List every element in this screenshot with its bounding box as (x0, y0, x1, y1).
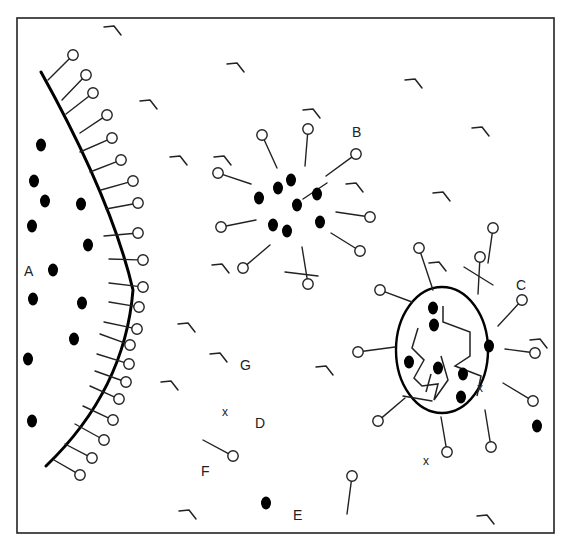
free-lipids (203, 223, 542, 514)
x-mark: x (477, 381, 483, 395)
lipid-tail (421, 253, 433, 290)
lipid-molecule (109, 255, 148, 265)
lipid-head-icon (88, 88, 98, 98)
lipid-tail (80, 140, 107, 152)
lipid-head-icon (138, 255, 148, 265)
lipid-molecule (485, 410, 496, 452)
protein-dot-icon (433, 362, 443, 375)
protein-dot-icon (404, 356, 414, 369)
lipid-molecule (65, 444, 97, 463)
lipid-head-icon (488, 223, 498, 233)
lipid-molecule (347, 471, 357, 514)
lipid-tail (505, 349, 530, 352)
protein-dot-icon (273, 182, 283, 195)
protein-dot-icon (23, 353, 33, 366)
lipid-molecule (104, 322, 142, 334)
detergent-monomer-icon (227, 63, 244, 72)
lipid-molecule (80, 133, 117, 152)
lipid-tail (226, 220, 256, 226)
lipid-molecule (441, 417, 452, 457)
protein-dot-icon (458, 368, 468, 381)
vesicle-outline (396, 287, 488, 413)
lipid-molecule (498, 295, 527, 326)
lipid-head-icon (486, 442, 496, 452)
lipid-molecule (48, 50, 78, 80)
detergent-monomer-icon (472, 127, 489, 136)
lipid-molecule (257, 130, 277, 168)
protein-dot-icon (456, 391, 466, 404)
protein-dot-icon (76, 198, 86, 211)
detergent-monomer-icon (212, 264, 229, 273)
lipid-tail (488, 233, 492, 263)
detergent-monomer-icon (405, 79, 422, 88)
lipid-tail (478, 262, 480, 294)
lipid-head-icon (125, 340, 135, 350)
lipid-tail (347, 481, 351, 514)
lipid-head-icon (99, 435, 109, 445)
lipid-head-icon (132, 324, 142, 334)
lipid-molecule (62, 70, 91, 100)
detergent-monomer-icon (433, 192, 450, 201)
detergent-monomer-icon (316, 366, 333, 375)
lipid-molecule (503, 383, 538, 406)
lipid-molecule (101, 176, 138, 190)
protein-dot-icon (254, 192, 264, 205)
lipid-head-icon (530, 348, 540, 358)
lipid-head-icon (121, 377, 131, 387)
lipid-molecule (353, 347, 395, 357)
lipid-tail (100, 334, 125, 343)
lipid-tail (66, 96, 89, 114)
lipid-head-icon (102, 110, 112, 120)
detergent-monomer-icon (429, 262, 446, 271)
lipid-molecule (54, 460, 85, 480)
lipid-head-icon (414, 243, 424, 253)
lipid-molecule (475, 252, 485, 294)
lipid-tail (326, 157, 352, 176)
lipid-molecule (106, 198, 143, 209)
detergent-monomer-icon (161, 381, 178, 390)
lipid-head-icon (517, 295, 527, 305)
x-mark: x (222, 405, 228, 419)
region-label-f: F (201, 463, 210, 479)
lipid-tail (48, 59, 69, 80)
protein-dot-icon (40, 195, 50, 208)
lipid-head-icon (134, 302, 144, 312)
lipid-molecule (213, 168, 251, 184)
lipid-tail (62, 79, 82, 100)
lipid-head-icon (81, 70, 91, 80)
protein-dot-icon (27, 415, 37, 428)
lipid-tail (336, 212, 365, 216)
protein-dot-icon (315, 216, 325, 229)
lipid-molecule (109, 282, 148, 292)
lipid-tail (90, 162, 116, 172)
lipid-head-icon (116, 155, 126, 165)
lipid-molecule (414, 243, 433, 290)
lipid-molecule (104, 228, 143, 238)
protein-dot-icon (286, 174, 296, 187)
lipid-head-icon (68, 50, 78, 60)
lipid-tail (54, 460, 75, 472)
lipid-tail (203, 440, 228, 454)
lipid-tail (485, 410, 490, 442)
lipid-molecule (203, 440, 238, 461)
detergent-monomer-icon (178, 323, 195, 332)
region-label-b: B (352, 124, 361, 140)
protein-dot-icon (83, 239, 93, 252)
lipid-head-icon (442, 447, 452, 457)
lipid-head-icon (128, 176, 138, 186)
lipid-molecule (303, 124, 313, 166)
lipid-molecule (109, 302, 144, 312)
protein-dot-icon (77, 297, 87, 310)
hydrocarbon-chain (426, 374, 431, 392)
lipid-head-icon (108, 415, 118, 425)
lipid-tail (385, 292, 412, 302)
lipid-head-icon (528, 396, 538, 406)
detergent-monomer-icon (170, 156, 187, 165)
region-label-e: E (293, 507, 302, 523)
lipid-tail (363, 347, 395, 351)
lipid-head-icon (133, 228, 143, 238)
lipid-molecule (80, 110, 112, 133)
protein-dot-icon (282, 225, 292, 238)
vesicle-c (353, 243, 540, 457)
lipid-molecule (488, 223, 498, 263)
